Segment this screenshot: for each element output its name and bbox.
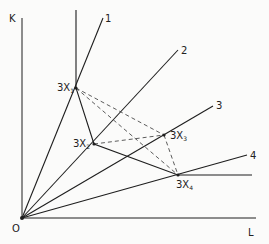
point-x3-label: 3X3	[170, 130, 187, 142]
point-x3	[162, 133, 165, 136]
k-axis-label: K	[9, 13, 16, 24]
origin-label: O	[12, 223, 20, 234]
process-ray-4	[22, 155, 247, 218]
process-ray-1	[22, 18, 103, 218]
point-x2	[92, 142, 95, 145]
dashed-x2-x3	[94, 135, 164, 144]
point-x1	[74, 86, 77, 89]
point-x4-label: 3X4	[176, 179, 193, 191]
origin-point	[20, 216, 24, 220]
ray-3-label: 3	[216, 100, 222, 111]
isoquant	[76, 10, 252, 175]
ray-4-label: 4	[250, 150, 256, 161]
process-ray-3	[22, 106, 213, 218]
point-x1-label: 3X1	[57, 82, 74, 94]
dashed-x3-x4	[164, 135, 178, 175]
ray-1-label: 1	[105, 13, 111, 24]
l-axis-label: L	[248, 227, 254, 238]
ray-2-label: 2	[181, 45, 187, 56]
activity-analysis-diagram: K L O 1 2 3 4 3X1 3X2 3X3 3X4	[0, 0, 269, 244]
dashed-x1-x4	[76, 88, 178, 175]
point-x2-label: 3X2	[73, 138, 90, 150]
process-ray-2	[22, 50, 178, 218]
point-x4	[176, 173, 179, 176]
